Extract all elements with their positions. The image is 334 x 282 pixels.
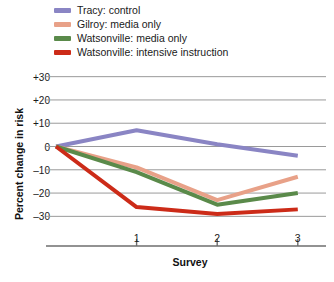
series-line	[56, 130, 298, 156]
legend-item-gilroy-media-only: Gilroy: media only	[54, 17, 329, 31]
chart-legend: Tracy: control Gilroy: media only Watson…	[54, 3, 329, 59]
legend-swatch-tracy-control	[54, 8, 71, 13]
x-tick-label: 3	[286, 232, 310, 244]
chart-svg	[0, 66, 334, 282]
chart-page: Tracy: control Gilroy: media only Watson…	[0, 0, 334, 282]
legend-label-watsonville-intensive-instruction: Watsonville: intensive instruction	[77, 46, 228, 59]
legend-item-watsonville-media-only: Watsonville: media only	[54, 31, 329, 45]
legend-label-watsonville-media-only: Watsonville: media only	[77, 32, 187, 45]
x-tick-label: 1	[125, 232, 149, 244]
legend-label-gilroy-media-only: Gilroy: media only	[77, 18, 161, 31]
legend-swatch-watsonville-media-only	[54, 36, 71, 41]
x-axis-title: Survey	[55, 256, 325, 268]
legend-swatch-gilroy-media-only	[54, 22, 71, 27]
x-tick-label: 2	[205, 232, 229, 244]
legend-label-tracy-control: Tracy: control	[77, 4, 140, 17]
legend-item-watsonville-intensive-instruction: Watsonville: intensive instruction	[54, 45, 329, 59]
legend-item-tracy-control: Tracy: control	[54, 3, 329, 17]
legend-swatch-watsonville-intensive-instruction	[54, 50, 71, 55]
plot-area: Percent change in risk +30+20+100–10–20–…	[0, 66, 334, 282]
